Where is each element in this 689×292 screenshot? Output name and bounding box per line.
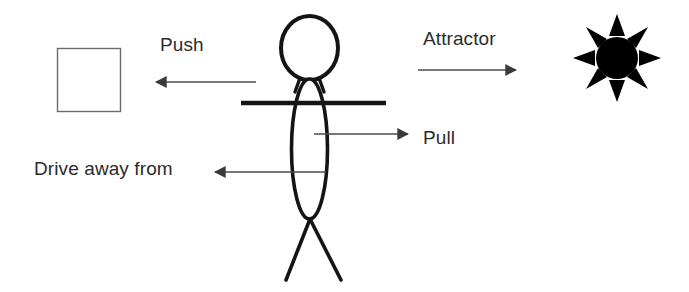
attractor-label: Attractor [423,29,496,48]
figure-torso [292,79,328,219]
diagram-svg [0,0,689,292]
figure-leg-right [310,219,341,280]
pull-label: Pull [423,128,455,147]
sun-attractor [573,14,661,102]
push-label: Push [160,35,204,54]
drive-away-from-label: Drive away from [34,159,173,178]
figure-head [281,16,338,80]
stick-figure [241,16,386,280]
diagram-canvas: Push Attractor Pull Drive away from [0,0,689,292]
square-object [58,49,121,112]
figure-leg-left [286,219,310,280]
